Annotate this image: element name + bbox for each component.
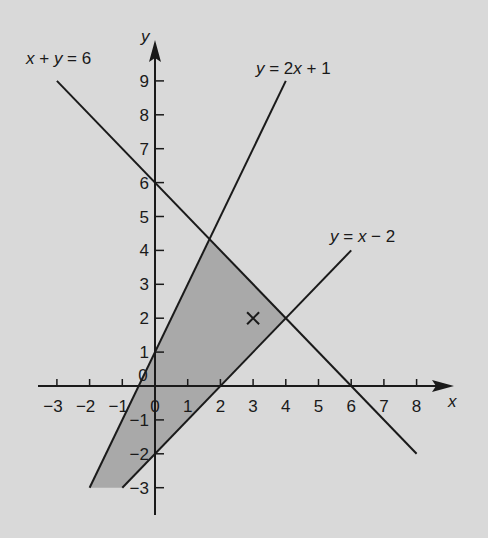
shaded-region-polygon xyxy=(90,239,286,488)
x-tick-label: 3 xyxy=(248,397,257,416)
y-tick-label: 4 xyxy=(140,241,149,260)
y-tick-label: 6 xyxy=(140,174,149,193)
x-axis-label: x xyxy=(447,392,457,411)
x-tick-label: 2 xyxy=(216,397,225,416)
line-y-eq-2x-plus-1 xyxy=(90,81,286,488)
y-axis-label: y xyxy=(140,27,151,46)
x-tick-label: 0 xyxy=(150,397,159,416)
y-tick-label: 1 xyxy=(140,343,149,362)
x-tick-label: 7 xyxy=(379,397,388,416)
x-tick-label: 5 xyxy=(314,397,323,416)
y-tick-label: 5 xyxy=(140,208,149,227)
y-tick-label: 9 xyxy=(140,72,149,91)
label-x-plus-y-eq-6: x + y = 6 xyxy=(25,49,91,68)
y-tick-label: 8 xyxy=(140,106,149,125)
x-tick-label: 6 xyxy=(346,397,355,416)
coordinate-plot: −3−2−1012345678−3−2−10123456789 x + y = … xyxy=(0,0,488,538)
y-tick-label: 7 xyxy=(140,140,149,159)
label-y-eq-x-minus-2: y = x − 2 xyxy=(329,227,395,246)
x-tick-label: −2 xyxy=(76,397,95,416)
y-tick-label: −1 xyxy=(130,411,149,430)
label-y-eq-2x-plus-1: y = 2x + 1 xyxy=(255,59,331,78)
y-tick-label: −2 xyxy=(130,445,149,464)
x-tick-label: −3 xyxy=(43,397,62,416)
y-tick-label: 3 xyxy=(140,275,149,294)
y-tick-label: 2 xyxy=(140,309,149,328)
shaded-feasible-region xyxy=(90,239,286,488)
x-tick-label: 8 xyxy=(412,397,421,416)
x-tick-label: 4 xyxy=(281,397,290,416)
y-tick-label: −3 xyxy=(130,479,149,498)
x-tick-label: 1 xyxy=(183,397,192,416)
